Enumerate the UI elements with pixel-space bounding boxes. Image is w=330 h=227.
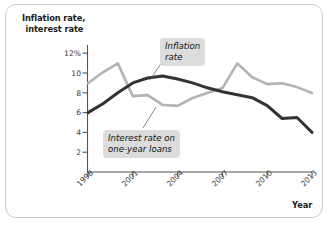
chart-plot-area [0, 0, 330, 227]
y-axis-title: Inflation rate, interest rate [22, 13, 85, 34]
y-tick-label-10: 10 [55, 69, 81, 78]
callout-inflation-line2: rate [165, 52, 200, 63]
chart-figure: Inflation rate, interest rate Year 12% 1… [0, 0, 330, 227]
callout-inflation-line1: Inflation [165, 41, 200, 52]
callout-interest-line1: Interest rate on [108, 133, 175, 144]
x-axis-ticks [88, 172, 312, 177]
callout-inflation-rate: Inflation rate [160, 38, 205, 66]
y-tick-label-12: 12% [55, 49, 81, 58]
y-axis-title-line2: interest rate [22, 24, 85, 35]
x-axis-title: Year [292, 200, 312, 211]
y-tick-label-2: 2 [55, 148, 81, 157]
y-axis-title-line1: Inflation rate, [22, 13, 85, 23]
y-tick-label-6: 6 [55, 108, 81, 117]
y-tick-label-8: 8 [55, 89, 81, 98]
y-tick-label-4: 4 [55, 128, 81, 137]
callout-interest-line2: one-year loans [108, 144, 175, 155]
callout-interest-rate: Interest rate on one-year loans [103, 130, 180, 158]
y-axis-ticks [83, 53, 88, 152]
